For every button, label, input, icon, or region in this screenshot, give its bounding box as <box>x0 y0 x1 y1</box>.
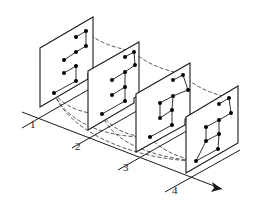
label-2: 2 <box>75 140 81 152</box>
panel-1 <box>22 17 93 128</box>
label-1: 1 <box>30 118 36 130</box>
diagram-canvas: 1 2 3 4 <box>0 0 253 205</box>
axis-arrow-icon <box>211 182 222 192</box>
label-4: 4 <box>172 184 178 196</box>
label-3: 3 <box>123 161 129 173</box>
